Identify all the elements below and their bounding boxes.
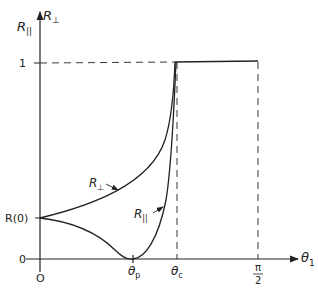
dashed-line-one xyxy=(40,62,175,63)
reflectance-diagram: R|| R⊥ 1 R(0) 0 O θp θc π 2 θ1 R⊥ R|| xyxy=(0,0,318,289)
y-tick-one: 1 xyxy=(19,57,26,70)
x-label-theta-1: θ1 xyxy=(301,250,315,268)
y-tick-r0: R(0) xyxy=(5,212,28,225)
total-reflection-line xyxy=(175,61,258,62)
x-tick-pi-denominator: 2 xyxy=(255,275,261,286)
x-tick-theta-c: θc xyxy=(171,264,183,280)
r-perp-curve xyxy=(40,62,175,218)
r-parallel-pointer xyxy=(153,207,163,213)
y-label-r-parallel: R|| xyxy=(17,19,32,36)
curve-label-r-perp: R⊥ xyxy=(89,176,104,192)
y-label-r-perp: R⊥ xyxy=(43,8,60,25)
x-tick-origin: O xyxy=(36,272,45,285)
x-tick-theta-p: θp xyxy=(128,264,140,280)
x-tick-pi-numerator: π xyxy=(255,262,261,273)
y-tick-zero: 0 xyxy=(19,253,26,266)
curve-label-r-parallel: R|| xyxy=(134,207,148,223)
r-perp-pointer xyxy=(106,184,118,190)
r-parallel-curve xyxy=(40,62,176,259)
